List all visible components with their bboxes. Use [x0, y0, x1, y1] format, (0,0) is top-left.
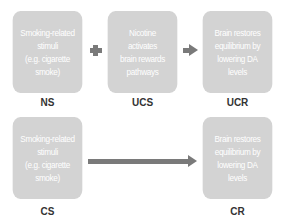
cs-label: CS — [7, 206, 88, 217]
cs-box-text: Smoking-related stimuli (e.g. cigarette … — [13, 132, 83, 184]
cr-label: CR — [197, 206, 278, 217]
cs-box: Smoking-related stimuli (e.g. cigarette … — [13, 117, 83, 199]
ns-label: NS — [7, 97, 88, 108]
ns-box: Smoking-related stimuli (e.g. cigarette … — [13, 11, 83, 93]
cr-box-text: Brain restores equilibrium by lowering D… — [214, 132, 260, 184]
ucr-box-text: Brain restores equilibrium by lowering D… — [214, 26, 260, 78]
ucs-box-text: Nicotine activates brain rewards pathway… — [120, 26, 165, 78]
cr-box: Brain restores equilibrium by lowering D… — [203, 117, 273, 199]
ns-box-text: Smoking-related stimuli (e.g. cigarette … — [13, 26, 83, 78]
ucs-label: UCS — [102, 97, 183, 108]
ucr-label: UCR — [197, 97, 278, 108]
ucs-box: Nicotine activates brain rewards pathway… — [108, 11, 178, 93]
ucr-box: Brain restores equilibrium by lowering D… — [203, 11, 273, 93]
